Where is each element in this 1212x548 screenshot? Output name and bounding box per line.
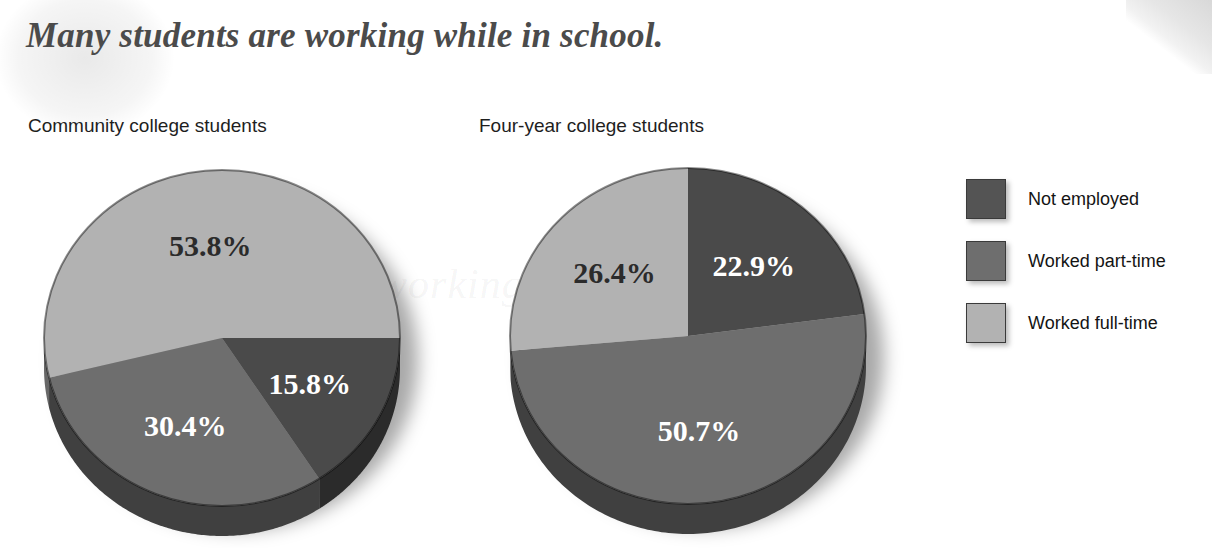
pie-slice-label: 15.8%: [268, 367, 351, 400]
corner-wedge-decoration: [1126, 0, 1212, 74]
chart-title-community-college: Community college students: [28, 115, 267, 137]
chart-title-four-year-college: Four-year college students: [479, 115, 704, 137]
pie-chart-community-college: 53.8%30.4%15.8%: [22, 152, 422, 544]
pie-slice-label: 50.7%: [658, 414, 741, 447]
legend-swatch-worked-part-time: [966, 241, 1006, 281]
page-title: Many students are working while in schoo…: [26, 16, 664, 56]
pie-slice-label: 53.8%: [169, 229, 252, 262]
legend-item-worked-full-time[interactable]: Worked full-time: [966, 292, 1206, 354]
pie-slice-label: 22.9%: [712, 249, 795, 282]
legend-swatch-worked-full-time: [966, 303, 1006, 343]
legend-swatch-not-employed: [966, 179, 1006, 219]
legend-item-worked-part-time[interactable]: Worked part-time: [966, 230, 1206, 292]
legend-label-not-employed: Not employed: [1028, 189, 1139, 210]
pie-chart-four-year-college: 22.9%50.7%26.4%: [488, 150, 888, 542]
legend-label-worked-part-time: Worked part-time: [1028, 251, 1166, 272]
pie-slice-label: 30.4%: [144, 409, 227, 442]
legend-item-not-employed[interactable]: Not employed: [966, 168, 1206, 230]
legend-label-worked-full-time: Worked full-time: [1028, 313, 1158, 334]
legend: Not employed Worked part-time Worked ful…: [966, 168, 1206, 354]
infographic-page: working students Many students are worki…: [0, 0, 1212, 548]
pie-slice-label: 26.4%: [573, 256, 656, 289]
